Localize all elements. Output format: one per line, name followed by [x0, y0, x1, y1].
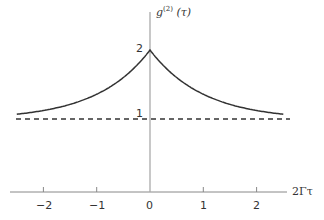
chart-canvas: [0, 0, 324, 220]
x-tick-label: 1: [200, 200, 207, 211]
x-tick-label: −2: [36, 200, 52, 211]
y-tick-label: 2: [136, 43, 143, 54]
x-tick-label: 2: [253, 200, 260, 211]
x-tick-label: 0: [146, 200, 153, 211]
x-tick-label: −1: [89, 200, 105, 211]
y-axis-label: g(2) (τ): [156, 5, 191, 19]
y-tick-label: 1: [136, 108, 143, 119]
x-axis-label: 2Γτ: [292, 186, 313, 197]
